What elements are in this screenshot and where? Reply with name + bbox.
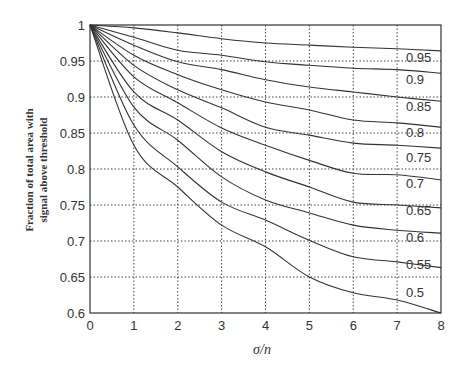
- y-axis-label-line-1: Fraction of total area with: [23, 108, 35, 231]
- y-axis-ticks: 0.60.650.70.750.80.850.90.951: [60, 18, 85, 321]
- y-tick-label: 0.6: [67, 306, 85, 321]
- curve-label: 0.7: [406, 176, 424, 191]
- x-tick-label: 0: [86, 318, 93, 333]
- curve-label: 0.8: [406, 125, 424, 140]
- grid-lines: [90, 25, 441, 313]
- y-tick-label: 0.65: [60, 270, 85, 285]
- x-axis-label: σ/n: [253, 342, 271, 357]
- y-tick-label: 0.75: [60, 198, 85, 213]
- y-tick-label: 0.85: [60, 126, 85, 141]
- chart: 012345678 0.60.650.70.750.80.850.90.951 …: [0, 0, 465, 369]
- x-tick-label: 2: [174, 318, 181, 333]
- y-tick-label: 0.95: [60, 54, 85, 69]
- curve-label: 0.55: [406, 257, 431, 272]
- x-tick-label: 8: [437, 318, 444, 333]
- curve-label: 0.75: [406, 150, 431, 165]
- curve-label: 0.5: [406, 285, 424, 300]
- curve-label: 0.95: [406, 50, 431, 65]
- curve-label: 0.65: [406, 203, 431, 218]
- y-tick-label: 0.9: [67, 90, 85, 105]
- y-axis-label: Fraction of total area with signal above…: [23, 108, 49, 231]
- curve-labels: 0.950.90.850.80.750.70.650.60.550.5: [406, 50, 431, 300]
- curve-label: 0.85: [406, 99, 431, 114]
- curve-label: 0.9: [406, 72, 424, 87]
- curve-0.6: [90, 25, 441, 233]
- y-tick-label: 0.7: [67, 234, 85, 249]
- y-tick-label: 0.8: [67, 162, 85, 177]
- x-tick-label: 7: [394, 318, 401, 333]
- x-tick-label: 5: [306, 318, 313, 333]
- y-axis-label-line-2: signal above threshold: [37, 118, 49, 223]
- x-axis-ticks: 012345678: [86, 318, 444, 333]
- x-tick-label: 4: [262, 318, 269, 333]
- x-tick-label: 3: [218, 318, 225, 333]
- y-tick-label: 1: [78, 18, 85, 33]
- curve-label: 0.6: [406, 230, 424, 245]
- x-tick-label: 1: [130, 318, 137, 333]
- x-tick-label: 6: [350, 318, 357, 333]
